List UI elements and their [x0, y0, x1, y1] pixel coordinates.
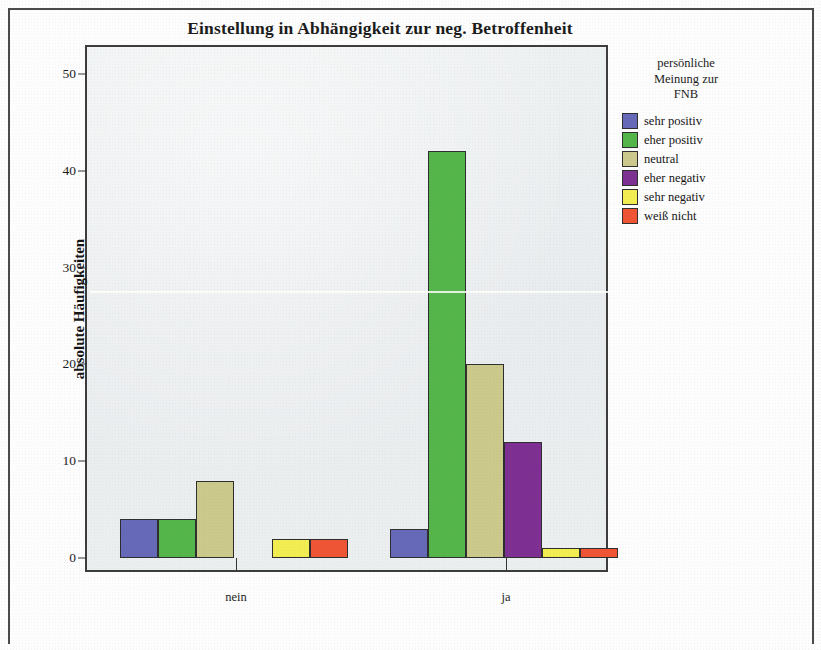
- bar: [272, 539, 310, 558]
- legend: persönlicheMeinung zurFNB sehr positiveh…: [622, 56, 802, 226]
- y-tick-mark: [78, 74, 87, 75]
- bar: [120, 519, 158, 558]
- legend-swatch-icon: [622, 208, 638, 224]
- legend-item-label: weiß nicht: [644, 209, 696, 224]
- legend-item[interactable]: eher negativ: [622, 169, 802, 188]
- bar: [390, 529, 428, 558]
- bar: [310, 539, 348, 558]
- legend-item-label: neutral: [644, 152, 679, 167]
- plot-frame: absolute Häufigkeiten 01020304050 neinja: [85, 45, 608, 572]
- bar: [158, 519, 196, 558]
- y-tick-mark: [78, 558, 87, 559]
- x-tick-mark: [236, 558, 237, 572]
- bar: [196, 481, 234, 558]
- scanned-page: Einstellung in Abhängigkeit zur neg. Bet…: [0, 0, 821, 650]
- legend-item[interactable]: eher positiv: [622, 131, 802, 150]
- y-tick-mark: [78, 170, 87, 171]
- legend-item-label: sehr negativ: [644, 190, 705, 205]
- x-tick-label: nein: [225, 590, 247, 605]
- legend-swatch-icon: [622, 189, 638, 205]
- legend-title: persönlicheMeinung zurFNB: [626, 56, 746, 103]
- bar: [428, 151, 466, 558]
- chart-figure: Einstellung in Abhängigkeit zur neg. Bet…: [10, 10, 810, 640]
- legend-title-line: persönliche: [626, 56, 746, 72]
- y-tick-mark: [78, 461, 87, 462]
- bar: [542, 548, 580, 558]
- bar: [504, 442, 542, 558]
- legend-swatch-icon: [622, 132, 638, 148]
- legend-item[interactable]: sehr negativ: [622, 188, 802, 207]
- plot-area: absolute Häufigkeiten 01020304050 neinja: [87, 47, 606, 570]
- chart-title: Einstellung in Abhängigkeit zur neg. Bet…: [130, 18, 630, 39]
- legend-swatch-icon: [622, 151, 638, 167]
- legend-item[interactable]: sehr positiv: [622, 112, 802, 131]
- legend-items: sehr positiveher positivneutraleher nega…: [622, 112, 802, 226]
- legend-title-line: FNB: [626, 87, 746, 103]
- y-tick-mark: [78, 267, 87, 268]
- y-tick-mark: [78, 364, 87, 365]
- legend-title-line: Meinung zur: [626, 72, 746, 88]
- legend-item-label: eher negativ: [644, 171, 705, 186]
- x-tick-label: ja: [501, 590, 510, 605]
- legend-item-label: sehr positiv: [644, 114, 702, 129]
- bar: [466, 364, 504, 558]
- legend-item-label: eher positiv: [644, 133, 703, 148]
- x-tick-mark: [506, 558, 507, 572]
- bar: [580, 548, 618, 558]
- legend-swatch-icon: [622, 113, 638, 129]
- legend-swatch-icon: [622, 170, 638, 186]
- legend-item[interactable]: weiß nicht: [622, 207, 802, 226]
- legend-item[interactable]: neutral: [622, 150, 802, 169]
